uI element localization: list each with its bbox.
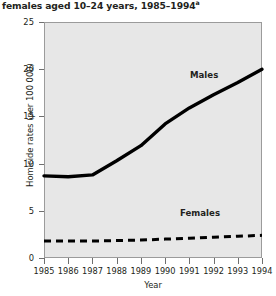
y-tick-label: 25	[8, 18, 34, 26]
x-tick-mark	[44, 258, 45, 264]
y-tick-mark	[39, 69, 44, 70]
x-tick-mark	[141, 258, 142, 264]
x-tick-mark	[92, 258, 93, 264]
series-annotation-males: Males	[190, 70, 218, 80]
chart-figure: females aged 10–24 years, 1985–1994a Mal…	[0, 0, 276, 296]
series-annotation-females: Females	[180, 208, 220, 218]
y-axis-title: Homicide rates (per 100 000)	[25, 40, 35, 210]
y-tick-mark	[39, 22, 44, 23]
chart-title: females aged 10–24 years, 1985–1994a	[2, 0, 274, 12]
x-tick-label: 1994	[247, 267, 276, 276]
chart-title-footnote-marker: a	[196, 0, 200, 6]
series-layer	[44, 22, 262, 258]
y-tick-mark	[39, 116, 44, 117]
series-line-males	[44, 69, 262, 177]
y-tick-mark	[39, 211, 44, 212]
series-line-females	[44, 235, 262, 241]
y-tick-label: 0	[8, 254, 34, 262]
x-tick-mark	[117, 258, 118, 264]
chart-title-text: females aged 10–24 years, 1985–1994	[2, 0, 196, 11]
x-tick-mark	[68, 258, 69, 264]
x-tick-mark	[262, 258, 263, 264]
x-tick-mark	[214, 258, 215, 264]
x-axis-title: Year	[44, 280, 262, 290]
x-tick-mark	[165, 258, 166, 264]
x-tick-mark	[238, 258, 239, 264]
x-tick-mark	[189, 258, 190, 264]
y-tick-mark	[39, 164, 44, 165]
